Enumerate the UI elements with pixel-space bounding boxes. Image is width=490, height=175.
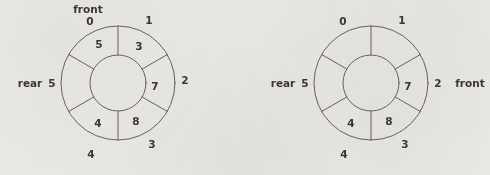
left-slot-value-3: 8 (132, 115, 139, 127)
spoke-left-upper-left (69, 55, 94, 70)
left-index-label-0: 0 (86, 15, 93, 27)
right-slot-value-4: 4 (347, 117, 354, 129)
left-index-label-2: 2 (181, 74, 188, 86)
figure-svg: 5 3 7 8 4 0 1 2 3 4 5 front rear (0, 0, 490, 175)
spoke-left-lower-right (142, 97, 167, 112)
left-index-label-3: 3 (148, 138, 155, 150)
left-slot-value-0: 5 (95, 38, 102, 50)
inner-circle-left (90, 55, 146, 111)
spoke-right-lower-right (395, 97, 420, 112)
inner-circle-right (343, 55, 399, 111)
spoke-left-lower-left (69, 97, 94, 112)
right-rear-pointer-label: rear (271, 77, 296, 89)
right-index-label-1: 1 (398, 14, 405, 26)
right-index-label-2: 2 (434, 77, 441, 89)
figure-canvas: 5 3 7 8 4 0 1 2 3 4 5 front rear (0, 0, 490, 175)
right-slot-value-3: 8 (385, 115, 392, 127)
left-index-label-4: 4 (87, 148, 94, 160)
right-front-pointer-label: front (455, 77, 484, 89)
right-index-label-0: 0 (339, 15, 346, 27)
right-index-label-3: 3 (401, 138, 408, 150)
left-index-label-5: 5 (48, 77, 55, 89)
spoke-right-upper-left (322, 55, 347, 70)
diagram-left: 5 3 7 8 4 0 1 2 3 4 5 front rear (18, 3, 189, 160)
spoke-right-upper-right (395, 55, 420, 70)
circular-queue-figure: 5 3 7 8 4 0 1 2 3 4 5 front rear (0, 0, 490, 175)
left-slot-value-4: 4 (94, 117, 101, 129)
right-slot-value-2: 7 (404, 80, 411, 92)
right-index-label-4: 4 (340, 148, 347, 160)
left-index-label-1: 1 (145, 14, 152, 26)
left-slot-value-2: 7 (151, 80, 158, 92)
left-rear-pointer-label: rear (18, 77, 43, 89)
spoke-left-upper-right (142, 55, 167, 70)
left-slot-value-1: 3 (135, 40, 142, 52)
right-index-label-5: 5 (301, 77, 308, 89)
spoke-right-lower-left (322, 97, 347, 112)
diagram-right: 7 8 4 0 1 2 3 4 5 front rear (271, 14, 485, 160)
left-front-pointer-label: front (73, 3, 102, 15)
